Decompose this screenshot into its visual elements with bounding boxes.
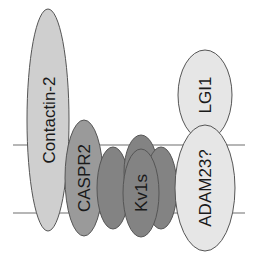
kv1s-label: Kv1s xyxy=(132,174,151,212)
protein-complex-diagram: Contactin-2 CASPR2 Kv1s LGI1 ADAM23? xyxy=(0,0,259,261)
lgi1-label: LGI1 xyxy=(196,77,215,114)
adam23-label: ADAM23? xyxy=(196,149,215,226)
kv1s-channel: Kv1s xyxy=(97,135,177,237)
contactin-2-protein: Contactin-2 xyxy=(27,9,69,231)
adam23-protein: ADAM23? xyxy=(175,125,235,251)
contactin-2-label: Contactin-2 xyxy=(40,77,59,164)
caspr2-label: CASPR2 xyxy=(75,144,94,212)
